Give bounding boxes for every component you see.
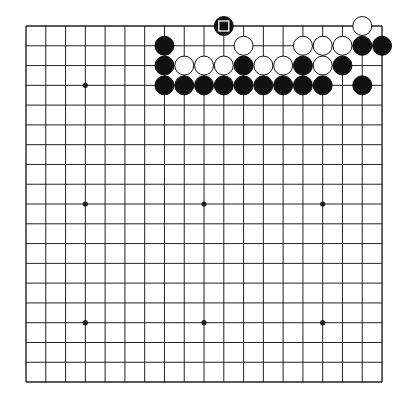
star-point — [83, 320, 88, 325]
black-stone[interactable] — [155, 56, 174, 75]
white-stone[interactable] — [333, 36, 352, 55]
white-stone[interactable] — [195, 56, 214, 75]
black-stone[interactable] — [214, 76, 233, 95]
black-stone[interactable] — [274, 76, 293, 95]
star-point — [320, 320, 325, 325]
black-stone[interactable] — [214, 17, 233, 36]
black-stone[interactable] — [254, 76, 273, 95]
white-stone[interactable] — [214, 56, 233, 75]
white-stone[interactable] — [313, 56, 332, 75]
black-stone[interactable] — [155, 36, 174, 55]
black-stone[interactable] — [234, 76, 253, 95]
black-stone[interactable] — [333, 56, 352, 75]
star-point — [83, 83, 88, 88]
white-stone[interactable] — [353, 17, 372, 36]
white-stone[interactable] — [313, 36, 332, 55]
star-point — [83, 201, 88, 206]
go-board[interactable] — [0, 0, 416, 403]
black-stone[interactable] — [195, 76, 214, 95]
black-stone[interactable] — [353, 36, 372, 55]
black-stone[interactable] — [175, 76, 194, 95]
white-stone[interactable] — [234, 36, 253, 55]
black-stone[interactable] — [293, 56, 312, 75]
go-board-canvas[interactable] — [0, 0, 416, 403]
white-stone[interactable] — [254, 56, 273, 75]
black-stone[interactable] — [234, 56, 253, 75]
white-stone[interactable] — [293, 36, 312, 55]
black-stone[interactable] — [313, 76, 332, 95]
white-stone[interactable] — [175, 56, 194, 75]
star-point — [201, 201, 206, 206]
black-stone[interactable] — [293, 76, 312, 95]
white-stone[interactable] — [274, 56, 293, 75]
black-stone[interactable] — [373, 36, 392, 55]
star-point — [320, 201, 325, 206]
black-stone[interactable] — [353, 76, 372, 95]
black-stone[interactable] — [155, 76, 174, 95]
stones-layer — [155, 17, 392, 95]
star-point — [201, 320, 206, 325]
